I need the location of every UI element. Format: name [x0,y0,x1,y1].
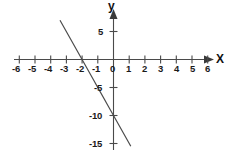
x-tick-label-5: 5 [190,64,195,74]
x-tick-label-zero: 0 [110,64,115,74]
x-tick-label-3: 3 [158,64,163,74]
x-tick-label-2: 2 [142,64,147,74]
y-axis-label: y [108,0,115,12]
x-tick-label-neg1: -1 [92,64,100,74]
x-tick-label-4: 4 [174,64,179,74]
x-tick-label-1: 1 [126,64,131,74]
x-tick-label-neg3: -3 [60,64,68,74]
x-tick-label-neg6: -6 [12,64,20,74]
x-tick-label-6: 6 [205,64,210,74]
x-tick-label-neg5: -5 [28,64,36,74]
x-tick-label-neg4: -4 [44,64,52,74]
y-tick-label-neg5: -5 [94,83,102,93]
x-tick-label-neg2: -2 [76,64,84,74]
y-tick-label-neg15: -15 [89,139,102,149]
x-axis-label: X [216,53,224,65]
y-tick-label-neg10: -10 [89,111,102,121]
coordinate-plane-figure: -6 -5 -4 -3 -2 -1 0 1 2 3 4 5 6 5 -5 -10… [0,0,236,158]
y-tick-label-5: 5 [98,27,103,37]
plot-canvas [0,0,236,158]
